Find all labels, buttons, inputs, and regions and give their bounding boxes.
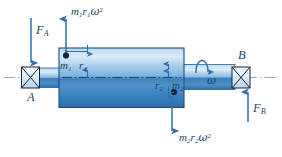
force-a-label: FA — [36, 24, 49, 38]
force-b-label: FB — [253, 102, 266, 116]
rotor-body — [59, 48, 184, 108]
mass-1-label: m1 — [60, 60, 72, 73]
centrifugal-force-2-label: m2r2ω2 — [179, 132, 211, 145]
bearing-a-label: A — [27, 91, 35, 104]
mass-2-label: m2 — [172, 80, 184, 93]
bearing-b — [232, 67, 250, 88]
left-shaft — [38, 68, 62, 88]
radius-1-label: r1 — [79, 60, 87, 73]
bearing-a — [22, 67, 40, 88]
bearing-b-label: B — [238, 49, 246, 62]
rotating-shaft-free-body-diagram: FA FB A B m1 r1 r2 m2 ω m1r1ω2 m2r2ω2 — [0, 0, 282, 157]
centrifugal-force-1-label: m1r1ω2 — [71, 6, 103, 19]
angular-velocity-label: ω — [207, 75, 216, 86]
mass-1-point — [63, 52, 69, 58]
radius-2-label: r2 — [155, 80, 163, 93]
